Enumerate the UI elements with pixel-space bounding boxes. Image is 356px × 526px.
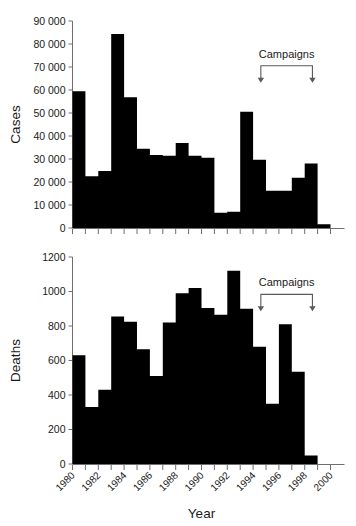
deaths-y-tick-label: 800 xyxy=(48,320,66,332)
cases-y-tick-label: 0 xyxy=(60,222,66,234)
cases-campaigns-label: Campaigns xyxy=(259,48,315,60)
deaths-y-tick-label: 1200 xyxy=(42,251,66,263)
cases-y-tick-label: 50 000 xyxy=(33,107,65,119)
deaths-y-tick-label: 0 xyxy=(60,458,66,470)
deaths-y-tick-label: 200 xyxy=(48,423,66,435)
cases-y-tick-label: 20 000 xyxy=(33,176,65,188)
figure-container: 010 00020 00030 00040 00050 00060 00070 … xyxy=(0,0,356,526)
cases-y-tick-label: 90 000 xyxy=(33,15,65,27)
deaths-y-axis-title: Deaths xyxy=(8,339,23,382)
x-axis-title: Year xyxy=(188,506,216,521)
cases-y-tick-label: 10 000 xyxy=(33,199,65,211)
cases-y-tick-label: 70 000 xyxy=(33,61,65,73)
deaths-y-tick-label: 1000 xyxy=(42,285,66,297)
two-panel-bar-chart: 010 00020 00030 00040 00050 00060 00070 … xyxy=(0,0,356,526)
cases-y-tick-label: 30 000 xyxy=(33,153,65,165)
cases-y-tick-label: 80 000 xyxy=(33,38,65,50)
cases-y-tick-label: 60 000 xyxy=(33,84,65,96)
cases-y-axis-title: Cases xyxy=(8,105,23,144)
cases-y-tick-label: 40 000 xyxy=(33,130,65,142)
deaths-y-tick-label: 400 xyxy=(48,389,66,401)
deaths-campaigns-label: Campaigns xyxy=(259,276,315,288)
deaths-y-tick-label: 600 xyxy=(48,354,66,366)
